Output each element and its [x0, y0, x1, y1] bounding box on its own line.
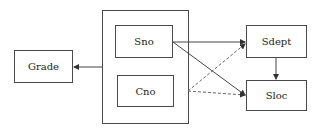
- edge-cno-to-sdept: [188, 44, 245, 91]
- edge-cno-to-sloc: [188, 91, 245, 95]
- edge-sno-to-sloc: [173, 42, 245, 95]
- edges-layer: [0, 0, 316, 131]
